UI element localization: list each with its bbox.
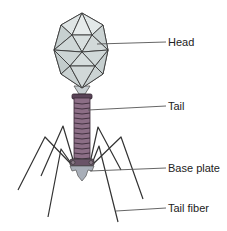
label-tail: Tail — [168, 100, 185, 112]
base-plate — [70, 159, 94, 181]
capsid-head — [54, 13, 108, 88]
label-head: Head — [168, 36, 194, 48]
tail-fiber-right-1 — [90, 127, 121, 170]
tail-sheath — [72, 94, 92, 160]
label-base-plate: Base plate — [168, 162, 220, 174]
label-tail-fiber: Tail fiber — [168, 202, 209, 214]
phage-diagram: Head Tail Base plate Tail fiber — [0, 0, 227, 231]
leader-line-tail — [88, 106, 166, 110]
leader-line-tail-fiber — [116, 208, 166, 211]
leader-line-head — [97, 42, 166, 44]
tail-fiber-left-3 — [48, 149, 73, 217]
leader-line-base-plate — [90, 168, 166, 171]
tail-fiber-left-2 — [18, 137, 72, 190]
